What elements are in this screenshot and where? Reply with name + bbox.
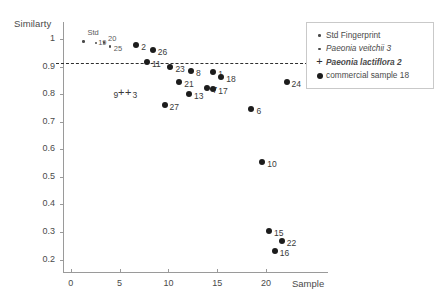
data-point-label: 15 — [274, 228, 283, 238]
data-point — [95, 42, 98, 45]
small-dot-icon — [313, 30, 326, 40]
scatter-chart-figure: Similarty 10.90.80.70.60.50.40.30.2 0510… — [0, 0, 438, 304]
data-point — [82, 40, 85, 43]
small-dot-icon — [313, 43, 326, 53]
data-point — [186, 91, 192, 97]
x-axis-line — [63, 272, 328, 273]
chart-legend: Std FingerprintPaeonia veitchii 3+Paeoni… — [306, 22, 434, 89]
legend-item-1[interactable]: Paeonia veitchii 3 — [313, 42, 427, 56]
y-tick-mark — [60, 149, 64, 150]
x-axis-title: Sample — [292, 278, 324, 289]
data-point — [188, 68, 194, 74]
data-point-label: 9 — [114, 90, 119, 100]
data-point — [167, 64, 173, 70]
data-point-label: 27 — [170, 102, 179, 112]
data-point-label: 21 — [184, 79, 193, 89]
data-point — [210, 69, 216, 75]
legend-label: Paeonia veitchii 3 — [326, 43, 391, 53]
plus-icon: + — [313, 56, 326, 67]
y-tick-mark — [60, 232, 64, 233]
data-point — [248, 106, 254, 112]
data-point — [162, 102, 168, 108]
legend-label: Std Fingerprint — [326, 30, 380, 40]
x-tick-mark — [71, 269, 72, 273]
data-point-label: 16 — [280, 248, 289, 258]
y-tick-mark — [60, 39, 64, 40]
y-tick-label: 0.4 — [21, 198, 55, 208]
data-point-label: 24 — [292, 79, 301, 89]
y-tick-mark — [60, 260, 64, 261]
data-point-label: 25 — [114, 44, 122, 53]
data-point-label: 20 — [108, 34, 116, 43]
legend-label: Paeonia lactiflora 2 — [326, 57, 402, 67]
data-point-plus: + — [125, 87, 131, 98]
data-point — [109, 45, 112, 48]
data-point-label: 13 — [194, 91, 203, 101]
data-point — [218, 74, 224, 80]
data-point-label: 8 — [196, 68, 201, 78]
y-tick-label: 0.8 — [21, 88, 55, 98]
data-point — [279, 238, 285, 244]
legend-item-3[interactable]: commercial sample 18 — [313, 69, 427, 83]
y-tick-label: 0.9 — [21, 61, 55, 71]
y-tick-mark — [60, 122, 64, 123]
large-dot-icon — [313, 70, 326, 80]
data-point — [210, 86, 216, 92]
x-tick-mark — [266, 269, 267, 273]
y-tick-label: 0.6 — [21, 143, 55, 153]
data-point-label: 3 — [132, 90, 137, 100]
y-tick-label: 0.3 — [21, 226, 55, 236]
y-tick-mark — [60, 67, 64, 68]
data-point-label: 11 — [152, 59, 161, 69]
x-tick-label: 0 — [59, 278, 83, 288]
x-tick-label: 20 — [254, 278, 278, 288]
y-tick-label: 0.2 — [21, 254, 55, 264]
data-point-label: 6 — [256, 106, 261, 116]
data-point-label: 17 — [218, 86, 227, 96]
y-tick-label: 0.7 — [21, 116, 55, 126]
x-tick-mark — [217, 269, 218, 273]
data-point — [144, 59, 150, 65]
y-tick-mark — [60, 177, 64, 178]
data-point — [150, 47, 156, 53]
x-tick-mark — [168, 269, 169, 273]
data-point-label: 10 — [267, 159, 276, 169]
legend-item-2[interactable]: +Paeonia lactiflora 2 — [313, 55, 427, 69]
x-tick-mark — [120, 269, 121, 273]
y-tick-label: 0.5 — [21, 171, 55, 181]
y-axis-line — [63, 22, 64, 272]
data-point — [259, 159, 265, 165]
data-point-label: Std — [88, 28, 99, 37]
data-point — [272, 248, 278, 254]
data-point-plus: + — [118, 87, 124, 98]
x-tick-label: 10 — [156, 278, 180, 288]
legend-label: commercial sample 18 — [326, 70, 409, 80]
y-axis-title: Similarty — [14, 18, 51, 29]
y-tick-mark — [60, 94, 64, 95]
y-tick-label: 1 — [21, 33, 55, 43]
data-point — [133, 42, 139, 48]
y-tick-mark — [60, 204, 64, 205]
data-point-label: 23 — [175, 64, 184, 74]
data-point-label: 2 — [141, 42, 146, 52]
data-point — [266, 228, 272, 234]
data-point — [176, 79, 182, 85]
data-point-label: 26 — [158, 47, 167, 57]
data-point-label: 22 — [287, 238, 296, 248]
data-point — [284, 79, 290, 85]
legend-item-0[interactable]: Std Fingerprint — [313, 28, 427, 42]
x-tick-label: 5 — [108, 278, 132, 288]
data-point-label: 18 — [226, 74, 235, 84]
x-tick-label: 15 — [205, 278, 229, 288]
